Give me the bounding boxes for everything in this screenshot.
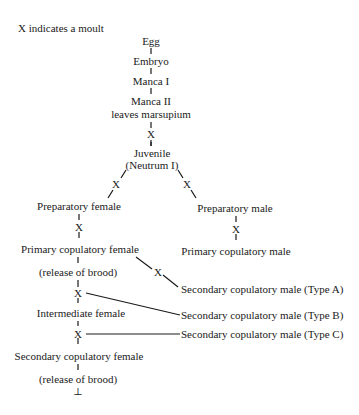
node-primary-copulatory-male: Primary copulatory male [181,245,290,257]
moult-marker: X [74,329,82,340]
node-manca-2-note: leaves marsupium [111,108,191,120]
node-preparatory-female: Preparatory female [37,200,121,212]
node-manca-1: Manca I [133,75,169,87]
node-secondary-copulatory-female: Secondary copulatory female [15,350,144,362]
node-release-of-brood-2: (release of brood) [39,373,117,385]
node-juvenile-note: (Neutrum I) [126,159,179,171]
node-egg: Egg [142,35,160,47]
moult-marker: X [183,179,191,190]
node-secondary-copulatory-male-type-a: Secondary copulatory male (Type A) [181,283,343,295]
moult-marker: X [232,224,240,235]
moult-marker: X [74,288,82,299]
node-juvenile: Juvenile [134,147,171,159]
legend-text: X indicates a moult [18,22,104,34]
end-symbol: ⊥ [73,386,82,398]
node-manca-2: Manca II [131,95,171,107]
node-release-of-brood-1: (release of brood) [39,266,117,278]
node-embryo: Embryo [133,55,168,67]
node-secondary-copulatory-male-type-c: Secondary copulatory male (Type C) [181,328,343,340]
moult-marker: X [112,179,120,190]
moult-marker: X [154,267,162,278]
node-preparatory-male: Preparatory male [197,202,272,214]
node-intermediate-female: Intermediate female [37,307,125,319]
moult-marker: X [147,129,155,140]
node-primary-copulatory-female: Primary copulatory female [21,243,139,255]
moult-marker: X [75,222,83,233]
node-secondary-copulatory-male-type-b: Secondary copulatory male (Type B) [181,309,343,321]
